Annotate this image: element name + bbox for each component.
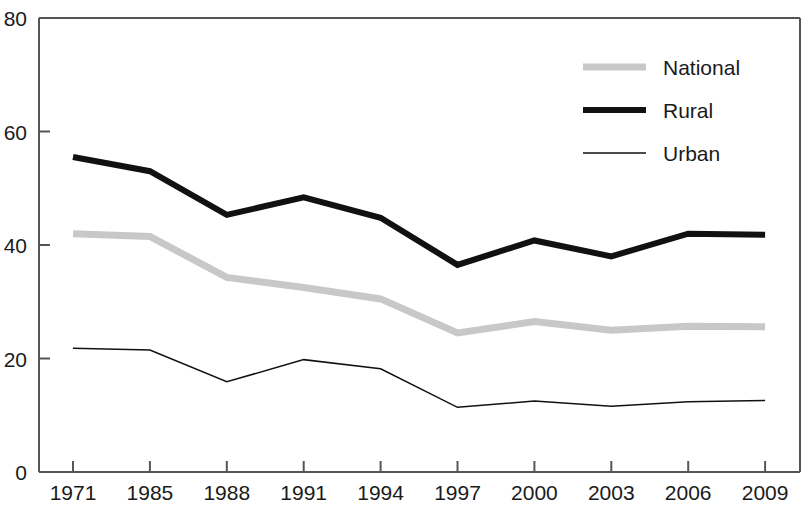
series-layer — [73, 157, 765, 407]
x-tick-label: 2009 — [742, 481, 789, 504]
y-axis-tick-labels: 020406080 — [4, 7, 27, 484]
legend-label-national: National — [663, 56, 740, 79]
x-tick-label: 1988 — [203, 481, 250, 504]
chart-legend: NationalRuralUrban — [583, 56, 740, 165]
y-tick-label: 80 — [4, 7, 27, 30]
x-tick-label: 2003 — [588, 481, 635, 504]
x-tick-label: 1985 — [127, 481, 174, 504]
series-line-urban — [73, 348, 765, 407]
y-axis-ticks — [39, 18, 50, 472]
x-tick-label: 1994 — [357, 481, 404, 504]
y-tick-label: 40 — [4, 234, 27, 257]
y-tick-label: 0 — [15, 461, 27, 484]
legend-label-rural: Rural — [663, 99, 713, 122]
x-tick-label: 2006 — [665, 481, 712, 504]
line-chart: 020406080 197119851988199119941997200020… — [0, 0, 810, 511]
x-axis-tick-labels: 1971198519881991199419972000200320062009 — [50, 481, 789, 504]
x-tick-label: 1991 — [280, 481, 327, 504]
chart-canvas: 020406080 197119851988199119941997200020… — [0, 0, 810, 511]
x-axis-ticks — [73, 461, 765, 472]
x-tick-label: 1997 — [434, 481, 481, 504]
x-tick-label: 1971 — [50, 481, 97, 504]
y-tick-label: 60 — [4, 121, 27, 144]
series-line-national — [73, 234, 765, 333]
x-tick-label: 2000 — [511, 481, 558, 504]
legend-label-urban: Urban — [663, 142, 720, 165]
y-tick-label: 20 — [4, 348, 27, 371]
